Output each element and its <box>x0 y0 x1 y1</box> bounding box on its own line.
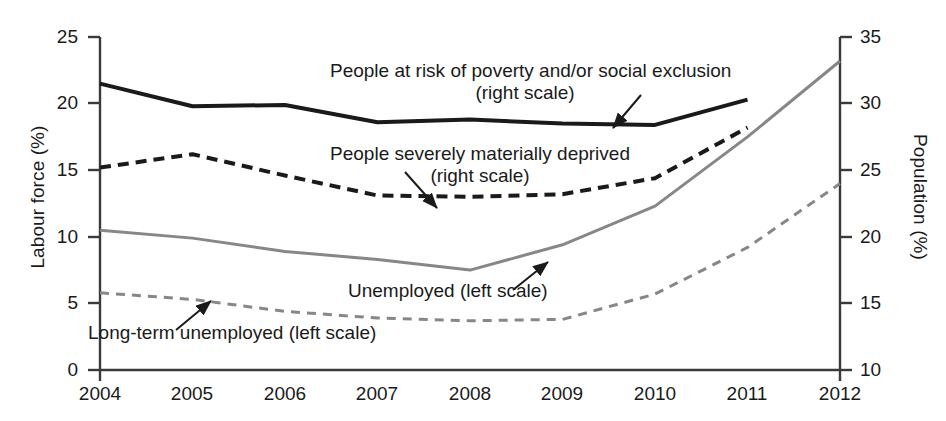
left-tick-label-15: 15 <box>38 159 78 181</box>
x-tick-label-2005: 2005 <box>160 383 224 405</box>
annotation-deprived-line1: People severely materially deprived <box>330 143 630 164</box>
left-axis-title: Labour force (%) <box>27 97 49 297</box>
x-tick-label-2008: 2008 <box>438 383 502 405</box>
x-tick-label-2012: 2012 <box>808 383 872 405</box>
left-tick-label-10: 10 <box>38 226 78 248</box>
left-tick-label-20: 20 <box>38 92 78 114</box>
annotation-poverty: People at risk of poverty and/or social … <box>330 60 720 105</box>
x-tick-label-2006: 2006 <box>253 383 317 405</box>
annotation-deprived-line2: (right scale) <box>330 165 630 187</box>
right-tick-label-15: 15 <box>860 292 900 314</box>
left-axis-ticks <box>88 37 100 370</box>
right-axis-ticks <box>840 37 852 370</box>
left-tick-label-5: 5 <box>38 292 78 314</box>
right-tick-label-20: 20 <box>860 226 900 248</box>
left-tick-label-0: 0 <box>38 359 78 381</box>
x-tick-label-2007: 2007 <box>345 383 409 405</box>
right-tick-label-25: 25 <box>860 159 900 181</box>
annotation-long-term-unemployed: Long-term unemployed (left scale) <box>88 322 376 344</box>
x-axis-ticks <box>100 370 840 381</box>
x-tick-label-2009: 2009 <box>530 383 594 405</box>
chart-container: Labour force (%) Population (%) 25 20 15… <box>0 0 946 421</box>
annotation-poverty-line1: People at risk of poverty and/or social … <box>330 60 731 81</box>
x-tick-label-2004: 2004 <box>68 383 132 405</box>
annotation-unemployed-line1: Unemployed (left scale) <box>348 280 548 301</box>
right-tick-label-10: 10 <box>860 359 900 381</box>
annotation-deprived: People severely materially deprived (rig… <box>330 143 630 188</box>
annotation-poverty-line2: (right scale) <box>330 82 720 104</box>
x-tick-label-2010: 2010 <box>623 383 687 405</box>
x-tick-label-2011: 2011 <box>715 383 779 405</box>
annotation-unemployed: Unemployed (left scale) <box>348 280 548 302</box>
right-axis-title: Population (%) <box>909 97 931 297</box>
right-tick-label-30: 30 <box>860 92 900 114</box>
left-tick-label-25: 25 <box>38 26 78 48</box>
annotation-long-term-unemployed-line1: Long-term unemployed (left scale) <box>88 322 376 343</box>
right-tick-label-35: 35 <box>860 26 900 48</box>
